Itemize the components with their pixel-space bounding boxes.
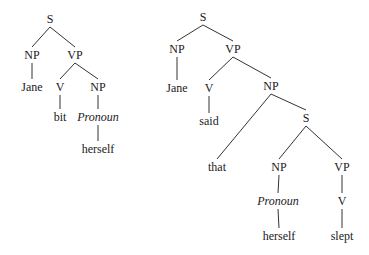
tree-edge [32, 27, 50, 47]
tree-edge [50, 27, 75, 47]
tree-edge [203, 25, 233, 41]
tree-node-v: V [338, 194, 347, 208]
tree-node-s: S [200, 10, 207, 24]
tree-node-jane: Jane [21, 80, 42, 94]
tree-edge [278, 209, 279, 228]
tree-node-jane: Jane [166, 81, 187, 95]
tree-node-np: NP [271, 160, 287, 174]
tree-node-vp: VP [334, 160, 350, 174]
tree-node-np: NP [263, 79, 279, 93]
tree-edge [306, 126, 342, 159]
tree-labels: SNPVPJaneVNPbitPronounherselfSNPVPJaneVN… [21, 10, 354, 243]
tree-edge [271, 94, 306, 110]
tree-node-said: said [199, 114, 218, 128]
tree-edge [60, 63, 75, 79]
tree-edge [233, 57, 271, 78]
syntax-tree-diagram: SNPVPJaneVNPbitPronounherselfSNPVPJaneVN… [0, 0, 369, 255]
tree-node-pronoun: Pronoun [256, 194, 299, 208]
tree-node-herself: herself [82, 142, 115, 156]
tree-node-s: S [47, 12, 54, 26]
tree-edge [209, 57, 233, 80]
tree-node-herself: herself [263, 229, 296, 243]
tree-node-np: NP [90, 80, 106, 94]
tree-node-bit: bit [54, 110, 67, 124]
tree-node-slept: slept [331, 229, 354, 243]
tree-node-np: NP [24, 48, 40, 62]
tree-node-pronoun: Pronoun [76, 110, 119, 124]
tree-node-vp: VP [225, 42, 241, 56]
tree-node-that: that [208, 160, 227, 174]
tree-node-v: V [56, 80, 65, 94]
tree-edge [278, 175, 279, 193]
tree-node-v: V [205, 81, 214, 95]
tree-edge [75, 63, 98, 79]
tree-node-np: NP [169, 42, 185, 56]
tree-edge [177, 25, 203, 41]
tree-edge [279, 126, 306, 159]
tree-edge [217, 94, 271, 159]
tree-node-vp: VP [67, 48, 83, 62]
tree-node-s: S [303, 111, 310, 125]
